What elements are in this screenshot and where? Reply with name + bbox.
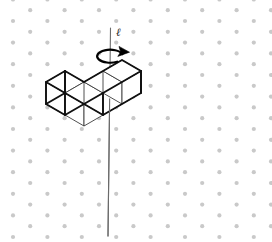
lattice-dot (183, 62, 187, 66)
lattice-dot (217, 127, 221, 131)
lattice-dot (235, 51, 239, 55)
lattice-dot (45, 213, 49, 217)
lattice-dot (45, 192, 49, 196)
lattice-dot (252, 235, 256, 239)
lattice-dot (11, 19, 15, 23)
lattice-dot (45, 62, 49, 66)
lattice-dot (80, 213, 84, 217)
lattice-dot (183, 19, 187, 23)
lattice-dot (114, 149, 118, 153)
lattice-dot (235, 159, 239, 163)
lattice-dot (28, 8, 32, 12)
lattice-dot (166, 116, 170, 120)
lattice-dot (80, 149, 84, 153)
lattice-dot (97, 224, 101, 228)
lattice-dot (114, 213, 118, 217)
lattice-dot (11, 41, 15, 45)
lattice-dot (28, 95, 32, 99)
lattice-dot (217, 19, 221, 23)
lattice-dot (28, 116, 32, 120)
lattice-dot (200, 30, 204, 34)
lattice-dot (149, 170, 153, 174)
figure-canvas: ℓ (0, 0, 272, 242)
lattice-dot (166, 138, 170, 142)
lattice-dot (97, 30, 101, 34)
lattice-dot (166, 8, 170, 12)
lattice-dot (252, 84, 256, 88)
lattice-dot (183, 149, 187, 153)
lattice-dot (45, 127, 49, 131)
lattice-dot (200, 224, 204, 228)
lattice-dot (235, 73, 239, 77)
lattice-dot (11, 84, 15, 88)
lattice-dot (114, 127, 118, 131)
lattice-dot (217, 105, 221, 109)
lattice-dot (28, 159, 32, 163)
lattice-dot (200, 8, 204, 12)
lattice-dot (149, 235, 153, 239)
lattice-dot (149, 127, 153, 131)
lattice-dot (97, 159, 101, 163)
figure-background (0, 0, 272, 242)
lattice-dot (252, 105, 256, 109)
lattice-dot (80, 192, 84, 196)
lattice-dot (45, 41, 49, 45)
lattice-dot (149, 84, 153, 88)
lattice-dot (131, 159, 135, 163)
lattice-dot (252, 192, 256, 196)
lattice-dot (11, 213, 15, 217)
lattice-dot (217, 62, 221, 66)
lattice-dot (149, 213, 153, 217)
lattice-dot (149, 105, 153, 109)
lattice-dot (166, 73, 170, 77)
lattice-dot (97, 203, 101, 207)
lattice-dot (252, 62, 256, 66)
lattice-dot (11, 170, 15, 174)
lattice-dot (63, 159, 67, 163)
lattice-dot (97, 181, 101, 185)
lattice-dot (217, 149, 221, 153)
lattice-dot (149, 149, 153, 153)
lattice-dot (131, 51, 135, 55)
lattice-dot (235, 138, 239, 142)
lattice-dot (235, 224, 239, 228)
lattice-dot (183, 84, 187, 88)
lattice-dot (166, 203, 170, 207)
lattice-dot (166, 95, 170, 99)
lattice-dot (131, 138, 135, 142)
lattice-dot (149, 62, 153, 66)
lattice-dot (166, 181, 170, 185)
lattice-dot (235, 203, 239, 207)
lattice-dot (200, 159, 204, 163)
lattice-dot (63, 138, 67, 142)
lattice-dot (97, 138, 101, 142)
lattice-dot (252, 170, 256, 174)
lattice-dot (235, 116, 239, 120)
lattice-dot (131, 116, 135, 120)
lattice-dot (235, 30, 239, 34)
lattice-dot (200, 95, 204, 99)
lattice-dot (63, 116, 67, 120)
lattice-dot (200, 51, 204, 55)
lattice-dot (217, 213, 221, 217)
lattice-dot (200, 181, 204, 185)
lattice-dot (114, 192, 118, 196)
lattice-dot (183, 192, 187, 196)
lattice-dot (252, 41, 256, 45)
lattice-dot (45, 149, 49, 153)
lattice-dot (28, 30, 32, 34)
lattice-dot (63, 8, 67, 12)
lattice-dot (149, 192, 153, 196)
lattice-dot (131, 30, 135, 34)
lattice-dot (183, 235, 187, 239)
lattice-dot (149, 41, 153, 45)
lattice-dot (28, 73, 32, 77)
lattice-dot (63, 51, 67, 55)
lattice-dot (183, 105, 187, 109)
lattice-dot (217, 41, 221, 45)
lattice-dot (114, 170, 118, 174)
lattice-dot (200, 116, 204, 120)
lattice-dot (166, 51, 170, 55)
lattice-dot (183, 170, 187, 174)
lattice-dot (166, 224, 170, 228)
